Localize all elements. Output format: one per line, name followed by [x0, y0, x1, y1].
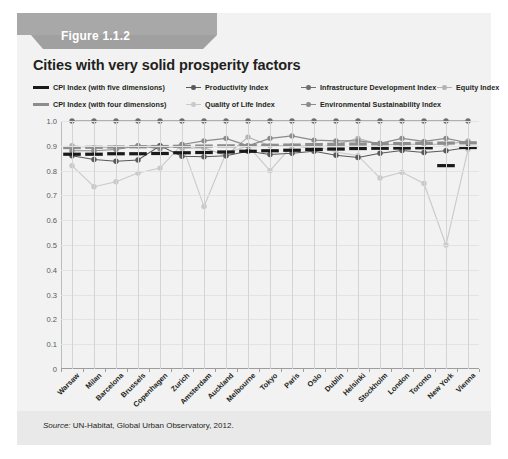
- y-tick-label: 0.3: [46, 290, 57, 299]
- grid-line-vertical: [160, 121, 161, 369]
- grid-line-vertical: [94, 121, 95, 369]
- legend-item[interactable]: Equity Index: [437, 83, 499, 92]
- source-prefix: Source:: [43, 421, 71, 430]
- y-tick-label: 0.5: [46, 241, 57, 250]
- source-band: Source: UN-Habitat, Global Urban Observa…: [17, 411, 491, 445]
- legend-bar-swatch-icon: [33, 86, 49, 90]
- figure-number: Figure 1.1.2: [61, 29, 130, 43]
- legend-item-label: CPI Index (with four dimensions): [53, 100, 166, 109]
- grid-line-vertical: [336, 121, 337, 369]
- grid-line-vertical: [424, 121, 425, 369]
- grid-line-vertical: [116, 121, 117, 369]
- legend-item[interactable]: CPI Index (with four dimensions): [33, 100, 166, 109]
- legend-point-swatch-icon: [437, 84, 452, 91]
- grid-line-vertical: [358, 121, 359, 369]
- y-tick-label: 0: [53, 365, 57, 374]
- y-tick-label: 0.2: [46, 315, 57, 324]
- chart-legend: CPI Index (with five dimensions)Producti…: [33, 83, 479, 117]
- grid-line-vertical: [204, 121, 205, 369]
- legend-point-swatch-icon: [186, 101, 201, 108]
- source-note: Source: UN-Habitat, Global Urban Observa…: [43, 421, 234, 430]
- grid-line-vertical: [138, 121, 139, 369]
- legend-point-swatch-icon: [301, 101, 316, 108]
- grid-line-vertical: [468, 121, 469, 369]
- legend-point-swatch-icon: [186, 84, 201, 91]
- y-tick-label: 0.8: [46, 166, 57, 175]
- y-tick-label: 0.1: [46, 340, 57, 349]
- y-tick-label: 0.7: [46, 191, 57, 200]
- legend-item[interactable]: Infrastructure Development Index: [301, 83, 436, 92]
- y-tick-label: 0.6: [46, 216, 57, 225]
- legend-item-label: Productivity Index: [205, 83, 268, 92]
- legend-item-label: Environmental Sustainability Index: [320, 100, 441, 109]
- source-text: UN-Habitat, Global Urban Observatory, 20…: [71, 421, 234, 430]
- grid-line-vertical: [226, 121, 227, 369]
- legend-bar-swatch-icon: [33, 103, 49, 107]
- legend-item[interactable]: Environmental Sustainability Index: [301, 100, 441, 109]
- grid-line-vertical: [248, 121, 249, 369]
- grid-line-vertical: [292, 121, 293, 369]
- y-tick-label: 0.4: [46, 265, 57, 274]
- plot-grid: [61, 121, 479, 369]
- grid-line-vertical: [314, 121, 315, 369]
- grid-line-vertical: [182, 121, 183, 369]
- plot-area: 00.10.20.30.40.50.60.70.80.91.0 WarsawMi…: [33, 121, 479, 383]
- y-tick-label: 1.0: [46, 117, 57, 126]
- legend-item-label: CPI Index (with five dimensions): [53, 83, 165, 92]
- legend-point-swatch-icon: [301, 84, 316, 91]
- figure-badge: Figure 1.1.2: [17, 13, 217, 55]
- y-tick-label: 0.9: [46, 141, 57, 150]
- page-title: Cities with very solid prosperity factor…: [33, 57, 300, 73]
- x-tick-label-text: Warsaw: [55, 371, 81, 397]
- grid-line-vertical: [270, 121, 271, 369]
- figure-card: Figure 1.1.2 Cities with very solid pros…: [17, 13, 491, 445]
- grid-line-vertical: [402, 121, 403, 369]
- legend-item[interactable]: Quality of Life Index: [186, 100, 275, 109]
- legend-item-label: Equity Index: [456, 83, 499, 92]
- y-axis-labels: 00.10.20.30.40.50.60.70.80.91.0: [33, 121, 57, 373]
- legend-item[interactable]: Productivity Index: [186, 83, 268, 92]
- grid-line-vertical: [446, 121, 447, 369]
- legend-item-label: Infrastructure Development Index: [320, 83, 436, 92]
- x-tick-label-text: Oslo: [305, 371, 323, 389]
- grid-line-vertical: [380, 121, 381, 369]
- legend-item[interactable]: CPI Index (with five dimensions): [33, 83, 165, 92]
- x-tick-label-text: Tokyo: [258, 371, 279, 392]
- x-tick-label-text: Paris: [282, 371, 301, 390]
- legend-item-label: Quality of Life Index: [205, 100, 275, 109]
- grid-line-vertical: [72, 121, 73, 369]
